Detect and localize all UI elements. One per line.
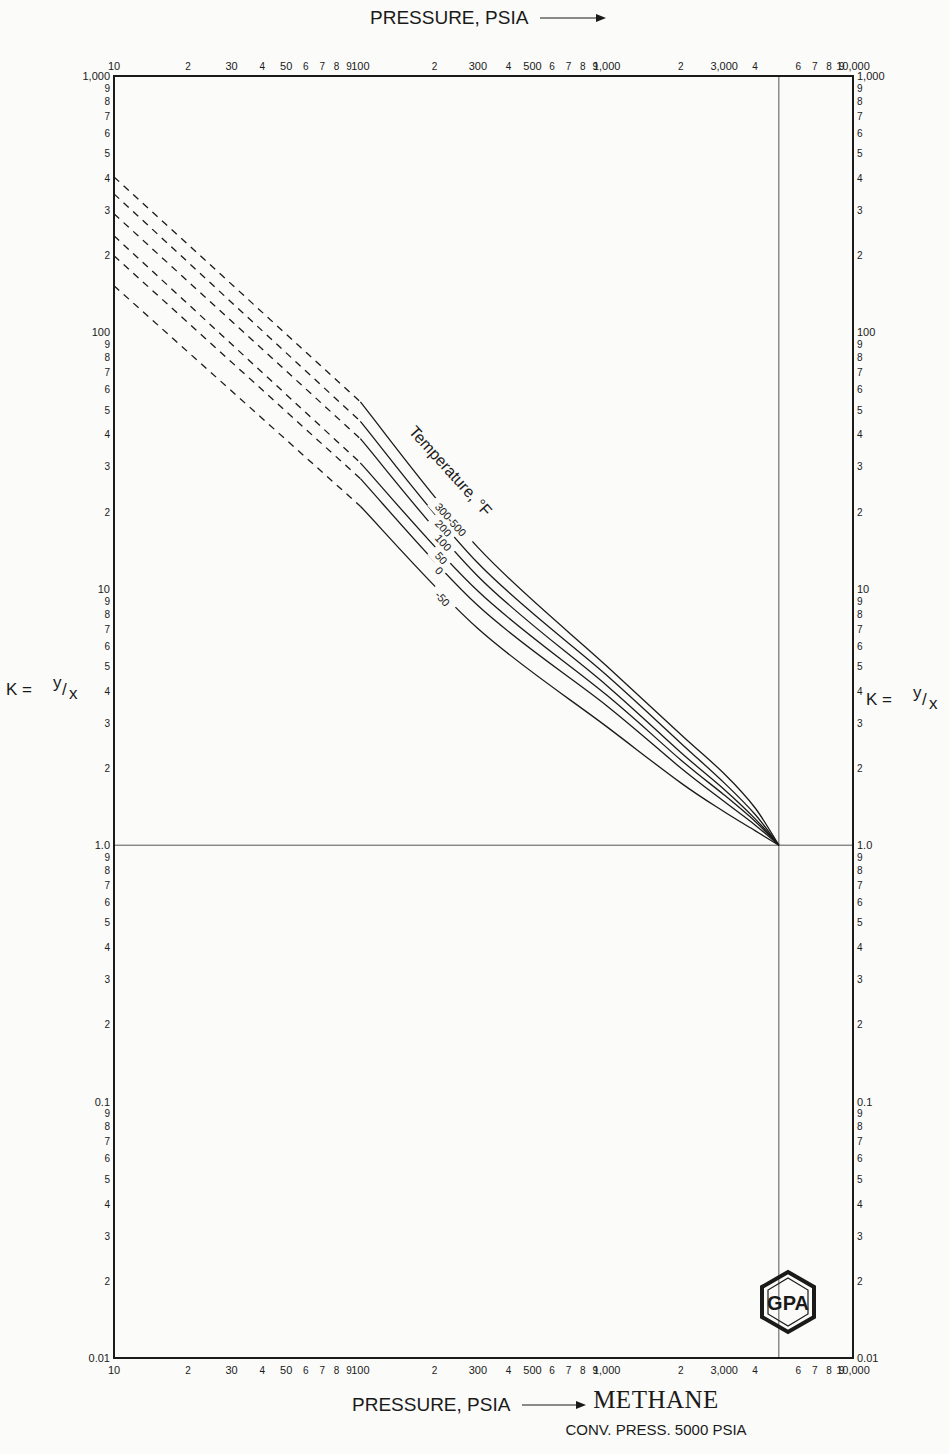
y-tick-label-right: 3	[857, 1231, 863, 1242]
y-tick-label-left: 3	[104, 1231, 110, 1242]
curve-solid-50	[360, 463, 779, 845]
y-tick-label-left: 8	[104, 352, 110, 363]
y-tick-label-right: 7	[857, 367, 863, 378]
y-tick-label-right: 2	[857, 763, 863, 774]
curve-dashed-50	[114, 236, 360, 463]
y-tick-label-left: 7	[104, 111, 110, 122]
y-tick-label-left: 3	[104, 974, 110, 985]
curve-dashed--50	[114, 286, 360, 506]
plot-border	[114, 76, 853, 1358]
y-tick-label-right: 7	[857, 1136, 863, 1147]
y-tick-label-right: 0.1	[857, 1096, 872, 1108]
y-tick-label-left: 1,000	[82, 70, 110, 82]
x-tick-label-bottom: 6	[303, 1365, 309, 1376]
y-tick-label-left: 4	[104, 942, 110, 953]
y-tick-label-right: 4	[857, 942, 863, 953]
y-tick-label-left: 9	[104, 1108, 110, 1119]
y-axis-label-right: K = y / x	[866, 683, 938, 713]
y-tick-label-right: 5	[857, 405, 863, 416]
x-tick-label-bottom: 8	[580, 1365, 586, 1376]
gpa-logo: GPA	[762, 1272, 814, 1332]
y-tick-label-left: 3	[104, 718, 110, 729]
y-tick-label-right: 8	[857, 609, 863, 620]
y-tick-label-left: 3	[104, 205, 110, 216]
x-tick-label-bottom: 1,000	[593, 1364, 621, 1376]
y-tick-label-right: 8	[857, 1121, 863, 1132]
bottom-axis-title: PRESSURE, PSIA	[352, 1394, 511, 1415]
y-tick-label-left: 2	[104, 1019, 110, 1030]
svg-text:x: x	[929, 694, 938, 713]
x-tick-label-bottom: 2	[678, 1365, 684, 1376]
x-tick-label-top: 7	[812, 61, 818, 72]
y-tick-label-left: 8	[104, 865, 110, 876]
svg-text:GPA: GPA	[767, 1292, 809, 1314]
x-tick-label-top: 8	[334, 61, 340, 72]
x-tick-label-top: 7	[566, 61, 572, 72]
x-tick-label-top: 30	[225, 60, 237, 72]
curve-dashed-0	[114, 256, 360, 479]
x-tick-label-bottom: 7	[566, 1365, 572, 1376]
x-tick-label-top: 6	[303, 61, 309, 72]
x-tick-label-top: 1,000	[593, 60, 621, 72]
x-tick-label-top: 500	[523, 60, 541, 72]
x-tick-label-bottom: 2	[185, 1365, 191, 1376]
y-tick-label-right: 7	[857, 624, 863, 635]
x-tick-label-bottom: 4	[752, 1365, 758, 1376]
svg-text:x: x	[69, 684, 78, 703]
svg-text:/: /	[922, 690, 927, 709]
curve-dashed-300-500	[114, 177, 360, 402]
y-tick-label-left: 6	[104, 128, 110, 139]
curve-dashed-200	[114, 194, 360, 421]
y-tick-label-left: 5	[104, 1174, 110, 1185]
svg-text:/: /	[62, 680, 67, 699]
y-tick-label-right: 5	[857, 1174, 863, 1185]
y-tick-label-left: 0.01	[89, 1352, 110, 1364]
y-tick-label-right: 2	[857, 1019, 863, 1030]
y-tick-label-right: 1,000	[857, 70, 885, 82]
y-tick-label-left: 7	[104, 624, 110, 635]
y-tick-label-left: 4	[104, 429, 110, 440]
x-tick-label-bottom: 7	[319, 1365, 325, 1376]
y-tick-label-right: 3	[857, 974, 863, 985]
y-tick-label-right: 10	[857, 583, 869, 595]
temperature-legend-title: Temperature, °F	[406, 423, 496, 520]
y-tick-label-right: 2	[857, 250, 863, 261]
x-tick-label-bottom: 500	[523, 1364, 541, 1376]
y-tick-label-left: 10	[98, 583, 110, 595]
y-tick-label-right: 4	[857, 686, 863, 697]
x-tick-label-top: 2	[185, 61, 191, 72]
x-tick-label-bottom: 300	[469, 1364, 487, 1376]
x-tick-label-top: 6	[796, 61, 802, 72]
x-tick-label-top: 100	[351, 60, 369, 72]
y-tick-label-right: 1.0	[857, 839, 872, 851]
y-tick-label-left: 9	[104, 852, 110, 863]
curve-dashed-100	[114, 214, 360, 439]
y-tick-label-right: 9	[857, 852, 863, 863]
y-tick-label-right: 9	[857, 339, 863, 350]
y-tick-label-left: 5	[104, 661, 110, 672]
y-tick-label-left: 9	[104, 83, 110, 94]
y-tick-label-right: 5	[857, 917, 863, 928]
y-tick-label-left: 6	[104, 1153, 110, 1164]
top-axis-title: PRESSURE, PSIA	[370, 7, 529, 28]
x-tick-label-top: 3,000	[710, 60, 738, 72]
y-tick-label-left: 9	[104, 596, 110, 607]
plot-frame	[114, 76, 853, 1358]
curve-solid--50	[360, 506, 779, 845]
y-tick-label-right: 6	[857, 641, 863, 652]
y-tick-label-right: 3	[857, 461, 863, 472]
x-tick-label-top: 2	[432, 61, 438, 72]
curve-labels: 300-500200100500-50Temperature, °F	[406, 423, 496, 616]
y-tick-label-left: 8	[104, 609, 110, 620]
x-tick-label-bottom: 7	[812, 1365, 818, 1376]
y-axis-label-left: K = y / x	[6, 673, 78, 703]
y-tick-label-right: 2	[857, 1276, 863, 1287]
y-tick-label-left: 5	[104, 148, 110, 159]
x-tick-label-bottom: 100	[351, 1364, 369, 1376]
y-tick-label-left: 2	[104, 250, 110, 261]
y-tick-label-left: 8	[104, 96, 110, 107]
y-tick-label-left: 5	[104, 405, 110, 416]
y-tick-label-left: 7	[104, 367, 110, 378]
y-tick-label-right: 3	[857, 718, 863, 729]
y-tick-label-left: 6	[104, 384, 110, 395]
